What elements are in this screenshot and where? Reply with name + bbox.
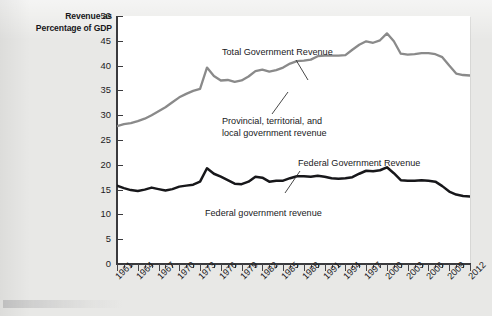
annotation-federal-government-revenue-lower: Federal government revenue xyxy=(205,208,322,220)
annotation-federal-government-revenue-upper: Federal Government Revenue xyxy=(298,158,420,170)
annotation-total-government-revenue: Total Government Revenue xyxy=(222,47,333,59)
leader-line-total xyxy=(296,60,308,80)
annotation-provincial-line-1: Provincial, territorial, and xyxy=(222,116,327,128)
figure-revenue-percentage-of-gdp: Revenue as Percentage of GDP 05101520253… xyxy=(0,0,492,316)
leader-line-provincial xyxy=(272,92,288,114)
scan-artifact xyxy=(3,300,123,308)
annotation-provincial-line-2: local government revenue xyxy=(222,128,327,140)
annotation-provincial-territorial-local: Provincial, territorial, and local gover… xyxy=(222,116,327,139)
leader-line-federal xyxy=(285,171,300,193)
